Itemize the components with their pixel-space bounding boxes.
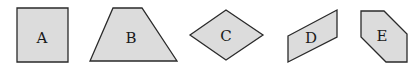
shape-d: D (288, 10, 337, 62)
shape-b: B (90, 8, 177, 61)
shape-a: A (17, 8, 68, 62)
shape-label-e: E (377, 27, 388, 45)
shape-label-c: C (220, 27, 231, 45)
shape-label-a: A (36, 29, 48, 47)
shape-e: E (361, 11, 407, 62)
shape-label-b: B (125, 29, 136, 47)
shapes-diagram: A B C D E (0, 0, 411, 70)
shape-label-d: D (305, 29, 317, 47)
shape-c: C (190, 10, 263, 60)
